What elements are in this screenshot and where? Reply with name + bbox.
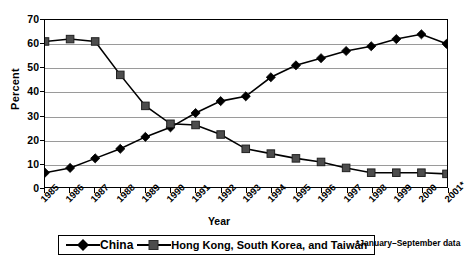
y-tick-label: 60 [13,37,39,49]
y-tick-label: 70 [13,13,39,25]
legend-label-china: China [100,238,133,252]
data-point-square [317,158,325,166]
legend-label-hkskt: Hong Kong, South Korea, and Taiwan [171,239,367,251]
data-point-diamond [116,144,125,153]
data-point-square [192,121,200,129]
data-point-square [267,150,275,158]
y-tick-label: 0 [13,182,39,194]
data-point-diamond [91,154,100,163]
data-point-square [167,120,175,128]
series-line-square [45,39,447,174]
data-point-square [342,164,350,172]
legend-entry-china: China [66,238,133,252]
data-point-square [117,71,125,79]
data-point-diamond [291,61,300,70]
data-point-diamond [45,168,50,177]
data-point-diamond [392,35,401,44]
data-point-diamond [442,39,447,48]
y-tick-label: 10 [13,158,39,170]
y-tick-label: 40 [13,85,39,97]
data-point-square [45,38,49,46]
chart-legend: China Hong Kong, South Korea, and Taiwan [58,235,375,255]
x-axis-title: Year [184,215,254,227]
data-point-diamond [417,30,426,39]
chart-figure: Percent 010203040506070 1985198619871988… [0,0,466,268]
data-point-square [242,145,250,153]
data-point-diamond [141,132,150,141]
data-point-square [443,170,447,178]
data-point-square [142,102,150,110]
x-tick-label: 1985 [38,182,61,205]
data-point-diamond [316,54,325,63]
plot-area [44,19,448,188]
legend-square-icon [137,238,171,252]
data-point-square [418,169,426,177]
legend-diamond-icon [66,238,100,252]
data-point-diamond [342,46,351,55]
series-canvas [45,20,447,187]
data-point-diamond [191,108,200,117]
chart-footnote: *January–September data [356,238,460,248]
data-point-square [393,169,401,177]
data-point-diamond [367,42,376,51]
data-point-square [66,35,74,43]
data-point-square [367,169,375,177]
y-tick-label: 30 [13,110,39,122]
data-point-square [91,38,99,46]
legend-entry-hkskt: Hong Kong, South Korea, and Taiwan [137,238,367,252]
y-tick-label: 20 [13,134,39,146]
data-point-diamond [66,163,75,172]
y-tick-label: 50 [13,61,39,73]
data-point-diamond [216,97,225,106]
data-point-square [217,131,225,139]
data-point-square [292,155,300,163]
